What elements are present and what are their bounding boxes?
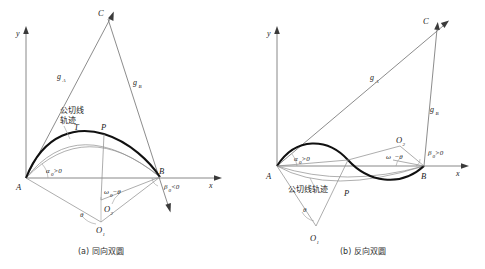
panel-b-point-O1-subscript: 1: [317, 240, 320, 245]
panel-b-point-O1-label: O: [310, 233, 316, 243]
panel-b-angle-theta-label: θ: [303, 206, 307, 214]
panel-a-angle-alpha0-relation: >0: [54, 167, 63, 175]
panel-a-point-O1-subscript: 1: [103, 232, 106, 237]
panel-a: y x g A g B C: [15, 8, 222, 256]
panel-b-angle-beta0-symbol: β: [427, 149, 432, 157]
panel-a-x-axis-label: x: [208, 181, 213, 190]
panel-a-point-O2: O 2: [104, 204, 114, 216]
panel-a-angle-beta0: β 0 <0: [163, 183, 180, 193]
panel-a-point-A-label: A: [15, 182, 22, 192]
panel-b-radius-O2-B: [400, 146, 424, 166]
panel-a-locus-annotation-line2: 轨迹: [60, 115, 76, 125]
panel-b-y-axis-label: y: [266, 29, 271, 38]
panel-a-angle-alpha0-symbol: α: [46, 167, 50, 175]
panel-b-point-O2: O 2: [396, 135, 406, 147]
panel-a-ray-gA-subscript: A: [62, 78, 67, 83]
panel-b-angle-alpha0-relation: >0: [302, 155, 311, 163]
panel-a-ray-gA-label: g: [57, 72, 61, 81]
panel-b-angle-alpha0-symbol: α: [294, 155, 298, 163]
panel-a-caption: (a) 同向双圆: [78, 246, 124, 256]
panel-b-angle-omega0-symbol: ω: [386, 153, 391, 161]
panel-b-caption: (b) 反向双圆: [340, 246, 386, 256]
panel-a-ray-gB-subscript: B: [139, 84, 142, 89]
panel-a-angle-theta-label: θ: [80, 211, 84, 219]
panel-a-locus-annotation: 公切线 轨迹: [60, 105, 84, 139]
panel-a-point-B-label: B: [159, 166, 164, 176]
panel-b-angle-omega0-relation: −θ: [395, 153, 404, 161]
panel-a-ray-gB-label: g: [133, 78, 137, 87]
panel-a-angle-theta-arc: [82, 216, 96, 224]
panel-a-point-P-label: P: [100, 122, 106, 132]
panel-b-ray-gA-label: g: [370, 73, 374, 82]
dual-circle-diagram: y x g A g B C: [0, 0, 485, 269]
panel-b: y x g A g B C: [265, 16, 469, 256]
panel-b-point-O2-label: O: [396, 135, 402, 145]
panel-a-y-axis-label: y: [15, 29, 20, 38]
panel-b-point-C-label: C: [423, 16, 429, 26]
panel-b-point-P-label: P: [343, 188, 349, 198]
panel-b-chord-A-P: [277, 160, 348, 166]
panel-a-y-axis: [23, 26, 29, 178]
panel-a-point-O2-label: O: [104, 204, 110, 214]
panel-a-angle-omega0-symbol: ω: [104, 188, 109, 196]
panel-a-angle-omega0-theta: ω 0 −θ: [104, 188, 121, 198]
panel-a-point-C-label: C: [98, 8, 104, 18]
panel-a-radius-A-O1: [26, 178, 101, 222]
panel-a-x-axis: [26, 175, 222, 181]
panel-a-locus-annotation-line1: 公切线: [60, 105, 84, 115]
panel-b-point-A-label: A: [265, 171, 272, 181]
panel-a-angle-omega0-relation: −θ: [113, 188, 122, 196]
panel-a-angle-beta0-relation: <0: [171, 183, 180, 191]
panel-b-x-axis: [277, 163, 469, 169]
panel-b-point-B-label: B: [421, 171, 426, 181]
panel-b-segment-P-O2: [348, 146, 400, 160]
panel-b-ray-gB-label: g: [430, 105, 434, 114]
panel-b-angle-beta0: β 0 >0: [427, 149, 444, 159]
panel-a-angle-beta0-symbol: β: [163, 183, 168, 191]
panel-b-ray-gB: [424, 22, 440, 166]
panel-b-locus-annotation: 公切线轨迹: [288, 178, 328, 194]
panel-b-locus-annotation-line1: 公切线轨迹: [288, 184, 328, 194]
panel-b-ray-gB-subscript: B: [436, 111, 439, 116]
panel-b-y-axis: [274, 26, 280, 166]
panel-b-angle-beta0-relation: >0: [435, 149, 444, 157]
panel-b-point-O2-subscript: 2: [403, 142, 406, 147]
panel-a-point-O1-label: O: [96, 225, 102, 235]
panel-a-ray-gB: [108, 19, 171, 213]
figure-container: y x g A g B C: [0, 0, 485, 269]
panel-b-angle-omega0-theta: ω −θ: [386, 153, 403, 161]
panel-b-point-O1: O 1: [310, 233, 319, 245]
panel-b-radius-A-O1: [277, 166, 316, 226]
panel-b-x-axis-label: x: [455, 169, 460, 178]
panel-a-point-O1: O 1: [96, 225, 105, 237]
panel-a-angle-alpha0: α 0 >0: [46, 167, 62, 177]
